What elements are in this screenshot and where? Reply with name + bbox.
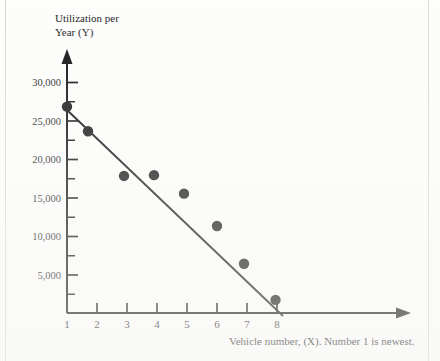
y-tick-label-20000: 20,000 bbox=[32, 154, 61, 165]
y-axis-arrow-icon bbox=[62, 49, 73, 64]
x-tick-label-6: 6 bbox=[214, 318, 220, 330]
x-tick-label-7: 7 bbox=[244, 318, 250, 330]
data-point bbox=[179, 188, 189, 198]
data-point bbox=[149, 170, 159, 180]
y-tick-label-15000: 15,000 bbox=[32, 193, 61, 204]
y-tick-label-10000: 10,000 bbox=[32, 231, 61, 242]
y-axis-title-line-1: Utilization per bbox=[55, 12, 119, 24]
trend-line bbox=[67, 110, 283, 316]
data-point bbox=[212, 221, 222, 231]
data-point bbox=[83, 126, 93, 136]
data-point-group bbox=[62, 101, 281, 305]
y-tick-label-30000: 30,000 bbox=[32, 77, 61, 88]
y-axis-title-line-2: Year (Y) bbox=[55, 26, 94, 39]
x-tick-label-1: 1 bbox=[64, 318, 70, 330]
x-axis-arrow-icon bbox=[396, 308, 411, 319]
x-tick-label-3: 3 bbox=[124, 318, 130, 330]
x-axis-title: Vehicle number, (X). Number 1 is newest. bbox=[229, 335, 415, 348]
x-tick-label-4: 4 bbox=[154, 318, 160, 330]
data-point bbox=[270, 295, 280, 305]
y-tick-label-5000: 5,000 bbox=[37, 270, 61, 281]
x-tick-label-2: 2 bbox=[94, 318, 100, 330]
y-tick-label-25000: 25,000 bbox=[32, 116, 61, 127]
x-tick-label-5: 5 bbox=[184, 318, 190, 330]
scatter-chart: Utilization per Year (Y) 30,000 25 bbox=[0, 0, 440, 361]
data-point bbox=[239, 259, 249, 269]
x-tick-label-8: 8 bbox=[274, 318, 280, 330]
data-point bbox=[62, 101, 72, 111]
chart-page: Utilization per Year (Y) 30,000 25 bbox=[0, 0, 440, 361]
x-axis-ticks bbox=[67, 303, 277, 313]
data-point bbox=[119, 171, 129, 181]
